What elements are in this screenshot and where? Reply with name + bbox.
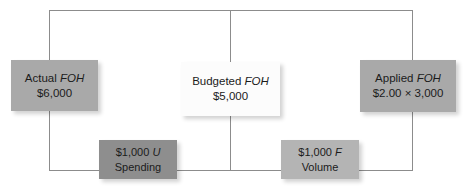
connector-top-rail <box>49 10 413 11</box>
node-spending-variance: $1,000 U Spending <box>99 140 177 179</box>
node-actual-foh: Actual FOH $6,000 <box>11 60 98 111</box>
node-applied-foh-line1: Applied FOH <box>375 71 441 86</box>
node-spending-variance-flag: U <box>152 146 160 158</box>
node-applied-foh: Applied FOH $2.00 × 3,000 <box>360 60 456 112</box>
node-volume-variance-line1: $1,000 F <box>298 145 341 159</box>
node-actual-foh-amount: $6,000 <box>37 86 72 101</box>
foh-variance-diagram: Actual FOH $6,000 Budgeted FOH $5,000 Ap… <box>0 0 465 191</box>
node-spending-variance-line1: $1,000 U <box>116 145 161 159</box>
node-volume-variance-label: Volume <box>302 160 339 174</box>
node-spending-variance-label: Spending <box>115 160 162 174</box>
node-budgeted-foh-amount: $5,000 <box>213 89 248 104</box>
node-actual-foh-abbrev: FOH <box>60 72 84 84</box>
node-applied-foh-abbrev: FOH <box>417 72 441 84</box>
node-applied-foh-amount: $2.00 × 3,000 <box>373 86 444 101</box>
node-budgeted-foh-line1: Budgeted FOH <box>192 74 269 89</box>
node-budgeted-foh: Budgeted FOH $5,000 <box>181 62 280 116</box>
node-budgeted-foh-abbrev: FOH <box>245 75 269 87</box>
node-actual-foh-line1: Actual FOH <box>25 71 84 86</box>
node-volume-variance: $1,000 F Volume <box>281 140 359 179</box>
node-volume-variance-flag: F <box>335 146 342 158</box>
